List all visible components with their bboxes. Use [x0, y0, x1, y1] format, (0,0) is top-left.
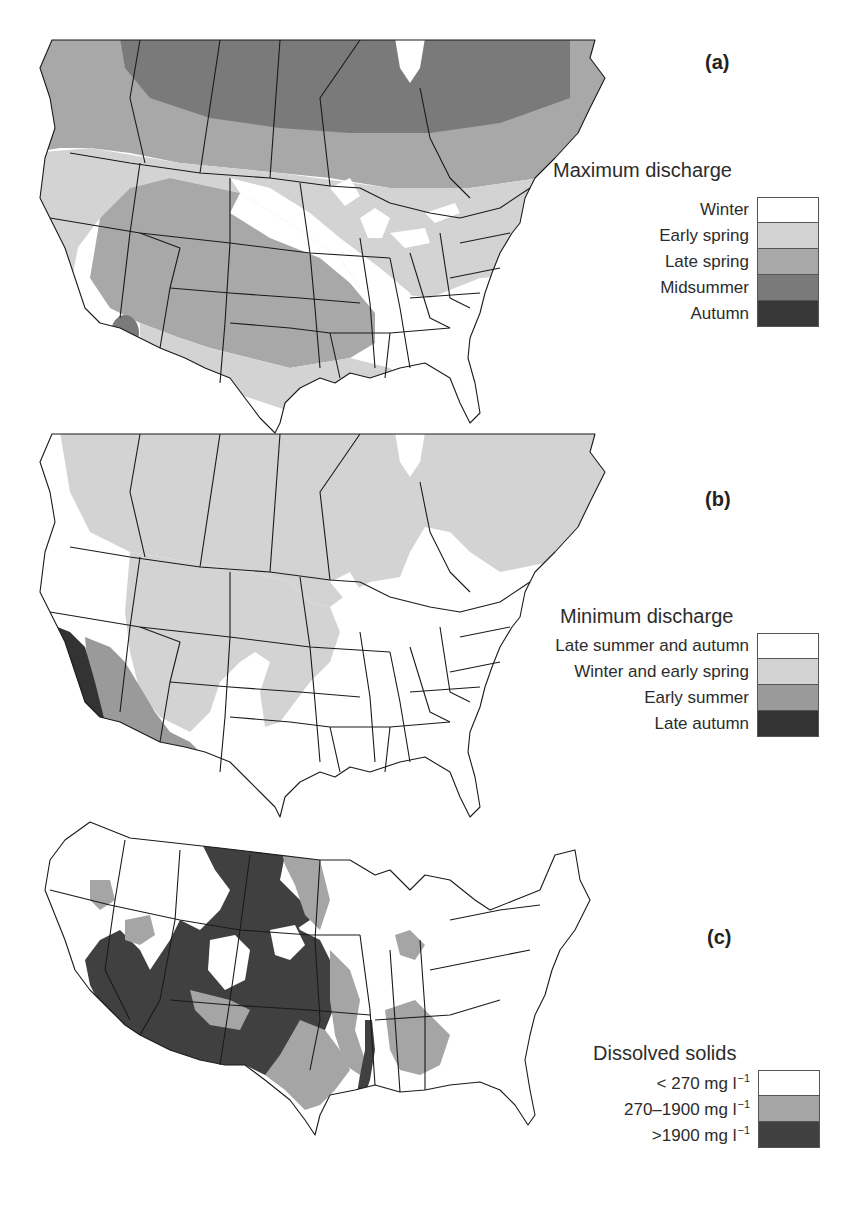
legend-item-late-spring: Late spring [659, 249, 819, 275]
legend-minimum-discharge: Late summer and autumn Winter and early … [555, 633, 819, 737]
legend-item-midsummer: Midsummer [659, 275, 819, 301]
legend-item-late-summer-and-autumn: Late summer and autumn [555, 633, 819, 659]
legend-label: Late autumn [654, 714, 749, 734]
legend-swatch [758, 1070, 820, 1096]
legend-swatch [757, 685, 819, 711]
map-b-minimum-discharge [30, 432, 610, 822]
legend-swatch [758, 1122, 820, 1148]
legend-item-late-autumn: Late autumn [555, 711, 819, 737]
legend-swatch [757, 301, 819, 327]
panel-label-a: (a) [705, 51, 729, 74]
legend-item-winter-and-early-spring: Winter and early spring [555, 659, 819, 685]
legend-label: Late summer and autumn [555, 636, 749, 656]
legend-label: Early spring [659, 226, 749, 246]
panel-b-minimum-discharge: (b) Minimum discharge Late summer and au… [0, 420, 856, 820]
legend-swatch [757, 659, 819, 685]
legend-swatch [757, 275, 819, 301]
legend-swatch [757, 249, 819, 275]
legend-item-autumn: Autumn [659, 301, 819, 327]
legend-item-lt-270: < 270 mg l−1 [624, 1070, 820, 1096]
legend-swatch [757, 633, 819, 659]
legend-label: Late spring [665, 252, 749, 272]
panel-label-c: (c) [707, 926, 731, 949]
map-c-dissolved-solids [30, 820, 610, 1220]
legend-label: Winter and early spring [574, 662, 749, 682]
legend-title-maximum-discharge: Maximum discharge [553, 159, 732, 182]
legend-label: Early summer [644, 688, 749, 708]
legend-item-winter: Winter [659, 197, 819, 223]
panel-c-dissolved-solids: (c) Dissolved solids < 270 mg l−1 270–19… [0, 820, 856, 1230]
legend-swatch [757, 197, 819, 223]
legend-item-270-1900: 270–1900 mg l−1 [624, 1096, 820, 1122]
legend-label: >1900 mg l−1 [652, 1124, 750, 1146]
legend-maximum-discharge: Winter Early spring Late spring Midsumme… [659, 197, 819, 327]
legend-swatch [758, 1096, 820, 1122]
legend-label: < 270 mg l−1 [657, 1072, 750, 1094]
legend-title-dissolved-solids: Dissolved solids [593, 1042, 736, 1065]
legend-label: Autumn [690, 304, 749, 324]
legend-item-early-summer: Early summer [555, 685, 819, 711]
map-a-maximum-discharge [30, 38, 610, 438]
legend-dissolved-solids: < 270 mg l−1 270–1900 mg l−1 >1900 mg l−… [624, 1070, 820, 1148]
panel-a-maximum-discharge: (a) Maximum discharge Winter Early sprin… [0, 0, 856, 420]
legend-item-gt-1900: >1900 mg l−1 [624, 1122, 820, 1148]
legend-swatch [757, 711, 819, 737]
legend-label: 270–1900 mg l−1 [624, 1098, 750, 1120]
legend-item-early-spring: Early spring [659, 223, 819, 249]
legend-label: Winter [700, 200, 749, 220]
legend-label: Midsummer [660, 278, 749, 298]
legend-swatch [757, 223, 819, 249]
legend-title-minimum-discharge: Minimum discharge [560, 605, 733, 628]
panel-label-b: (b) [705, 488, 731, 511]
